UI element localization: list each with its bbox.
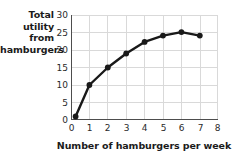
y-tick-label-15: 15	[52, 64, 68, 73]
x-tick-label-5: 5	[158, 124, 170, 133]
x-tick-label-4: 4	[139, 124, 151, 133]
data-point-0	[73, 114, 79, 120]
y-axis-title-line-3: from	[0, 32, 54, 44]
data-point-markers	[73, 29, 203, 119]
utility-chart-figure: Total utility from hamburgers 30 25 20 1…	[0, 0, 240, 159]
data-point-3	[123, 51, 129, 57]
y-tick-label-20: 20	[52, 46, 68, 55]
y-tick-label-30: 30	[52, 11, 68, 20]
x-axis-title: Number of hamburgers per week	[50, 140, 238, 151]
y-axis-title-line-2: utility	[0, 21, 54, 33]
x-tick-label-0: 0	[66, 124, 78, 133]
y-tick-label-25: 25	[52, 29, 68, 38]
x-tick-label-7: 7	[195, 124, 207, 133]
data-point-7	[197, 33, 203, 39]
x-tick-label-8: 8	[212, 124, 224, 133]
y-tick-label-5: 5	[52, 99, 68, 108]
y-axis-title: Total utility from hamburgers	[0, 9, 54, 55]
data-point-4	[142, 39, 148, 45]
x-tick-label-1: 1	[84, 124, 96, 133]
y-axis-title-line-4: hamburgers	[0, 44, 54, 56]
plot-area	[71, 15, 218, 120]
data-point-2	[105, 65, 111, 71]
data-point-6	[179, 29, 185, 35]
y-tick-label-10: 10	[52, 81, 68, 90]
data-point-5	[160, 33, 166, 39]
data-point-1	[87, 82, 93, 88]
x-tick-label-6: 6	[176, 124, 188, 133]
x-tick-label-3: 3	[121, 124, 133, 133]
y-axis-title-line-1: Total	[0, 9, 54, 21]
x-tick-label-2: 2	[102, 124, 114, 133]
